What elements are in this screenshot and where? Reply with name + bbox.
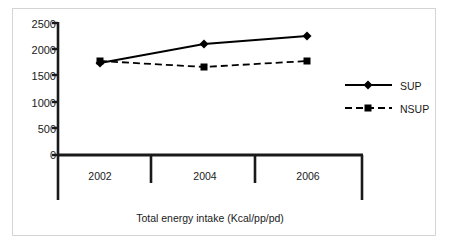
marker-nsup-2002 (97, 58, 104, 65)
legend-marker-sup-diamond (364, 81, 373, 90)
marker-nsup-2004 (201, 64, 208, 71)
legend-marker-nsup-square (365, 105, 372, 112)
marker-sup-2004 (200, 40, 209, 49)
marker-sup-2006 (303, 32, 312, 41)
chart-svg (0, 0, 452, 251)
marker-nsup-2006 (304, 58, 311, 65)
chart-canvas: 2500 2000 1500 1000 500 0 2002 2004 2006… (0, 0, 452, 251)
